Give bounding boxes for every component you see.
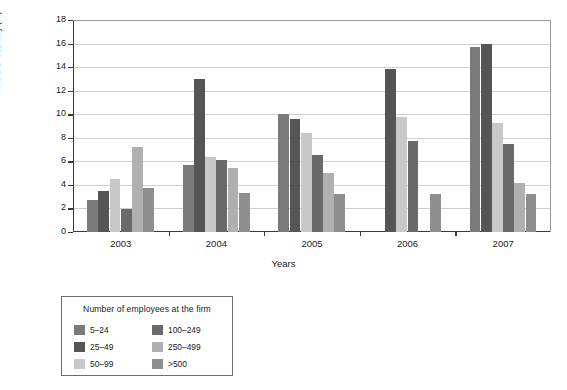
legend-label: 5–24 bbox=[90, 325, 109, 335]
legend-item: 250–499 bbox=[152, 342, 238, 352]
y-axis-tick-mark bbox=[68, 44, 73, 45]
bar bbox=[492, 123, 503, 232]
bar bbox=[323, 173, 334, 232]
bar bbox=[143, 188, 154, 232]
legend-swatch bbox=[152, 325, 163, 335]
legend-item: 100–249 bbox=[152, 325, 238, 335]
bar bbox=[216, 160, 227, 232]
bar bbox=[334, 194, 345, 232]
legend-label: 100–249 bbox=[168, 325, 201, 335]
legend-title: Number of employees at the firm bbox=[62, 304, 232, 314]
bar bbox=[87, 200, 98, 232]
legend-swatch bbox=[74, 359, 85, 369]
legend-swatch bbox=[152, 359, 163, 369]
bar bbox=[132, 147, 143, 232]
bar bbox=[470, 47, 481, 233]
bar-chart: R and D intensity (%) 024681012141618 20… bbox=[0, 0, 567, 290]
legend-item: 25–49 bbox=[74, 342, 152, 352]
y-axis-tick-label: 12 bbox=[40, 86, 66, 95]
legend-swatch bbox=[74, 325, 85, 335]
y-axis-tick-label: 6 bbox=[40, 156, 66, 165]
y-axis-tick-mark bbox=[68, 161, 73, 162]
bar bbox=[194, 79, 205, 232]
bar bbox=[239, 193, 250, 232]
bar bbox=[290, 119, 301, 232]
y-axis-tick-mark bbox=[68, 138, 73, 139]
gridline bbox=[74, 20, 551, 21]
bar bbox=[183, 165, 194, 232]
y-axis-tick-label: 14 bbox=[40, 62, 66, 71]
gridline bbox=[74, 44, 551, 45]
legend-swatch bbox=[152, 342, 163, 352]
bar bbox=[408, 141, 419, 232]
y-axis-tick-label: 8 bbox=[40, 133, 66, 142]
x-axis-tick-label: 2003 bbox=[91, 238, 151, 249]
y-axis-tick-mark bbox=[68, 185, 73, 186]
bar bbox=[503, 144, 514, 232]
legend-label: 25–49 bbox=[90, 342, 113, 352]
y-axis-tick-label: 10 bbox=[40, 109, 66, 118]
x-axis-tick-mark bbox=[264, 232, 265, 236]
y-axis-tick-mark bbox=[68, 91, 73, 92]
legend-item: >500 bbox=[152, 359, 238, 369]
legend-swatch bbox=[74, 342, 85, 352]
x-axis-tick-label: 2005 bbox=[282, 238, 342, 249]
bar bbox=[396, 117, 407, 232]
x-axis-tick-label: 2007 bbox=[473, 238, 533, 249]
y-axis-tick-mark bbox=[68, 114, 73, 115]
bar bbox=[481, 44, 492, 232]
y-axis-tick-mark bbox=[68, 67, 73, 68]
bar bbox=[228, 168, 239, 232]
x-axis-tick-mark bbox=[169, 232, 170, 236]
y-axis-tick-label: 16 bbox=[40, 39, 66, 48]
x-axis-tick-label: 2004 bbox=[186, 238, 246, 249]
bar bbox=[312, 155, 323, 232]
bar bbox=[98, 191, 109, 232]
legend-entries: 5–24100–24925–49250–49950–99>500 bbox=[62, 321, 232, 372]
y-axis-tick-label: 2 bbox=[40, 203, 66, 212]
y-axis-title: R and D intensity (%) bbox=[0, 12, 2, 92]
legend-label: 250–499 bbox=[168, 342, 201, 352]
x-axis-tick-label: 2006 bbox=[378, 238, 438, 249]
y-axis-tick-mark bbox=[68, 20, 73, 21]
legend-item: 50–99 bbox=[74, 359, 152, 369]
legend-label: 50–99 bbox=[90, 359, 113, 369]
y-axis-tick-mark bbox=[68, 208, 73, 209]
y-axis-tick-label: 4 bbox=[40, 180, 66, 189]
bar bbox=[430, 194, 441, 232]
y-axis-tick-label: 0 bbox=[40, 227, 66, 236]
bar bbox=[278, 114, 289, 232]
y-axis-tick-mark bbox=[68, 232, 73, 233]
bar bbox=[301, 133, 312, 232]
bar bbox=[110, 179, 121, 232]
x-axis-tick-mark bbox=[455, 232, 456, 236]
bar bbox=[121, 209, 132, 232]
x-axis-tick-mark bbox=[360, 232, 361, 236]
legend: Number of employees at the firm 5–24100–… bbox=[61, 296, 233, 376]
x-axis-title: Years bbox=[0, 258, 567, 269]
bar bbox=[205, 157, 216, 232]
legend-item: 5–24 bbox=[74, 325, 152, 335]
bar bbox=[514, 183, 525, 232]
bar bbox=[385, 69, 396, 232]
y-axis-tick-label: 18 bbox=[40, 15, 66, 24]
bar bbox=[526, 194, 537, 232]
legend-label: >500 bbox=[168, 359, 187, 369]
